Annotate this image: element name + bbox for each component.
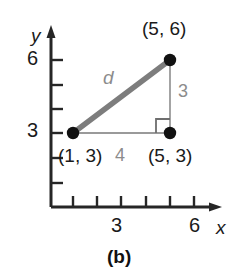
x-tick-label-6: 6 (189, 215, 200, 235)
x-axis-ticks (73, 196, 194, 207)
point-label-1-3: (1, 3) (58, 146, 102, 165)
vertical-leg-length-label: 3 (178, 82, 188, 100)
figure-caption: (b) (107, 247, 131, 266)
point-5-3-marker (164, 127, 176, 139)
y-tick-label-6: 6 (27, 48, 38, 68)
point-label-5-6: (5, 6) (142, 19, 186, 38)
y-tick-label-3: 3 (27, 120, 38, 140)
x-axis-arrowhead (209, 203, 222, 212)
x-axis-label: x (216, 218, 226, 237)
point-5-6-marker (164, 54, 176, 66)
hypotenuse-length-label: d (103, 68, 114, 87)
distance-formula-figure: y x 6 3 3 6 (5, 6) (1, 3) (5, 3) d 4 3 (… (0, 0, 236, 275)
y-axis-label: y (31, 26, 41, 45)
y-axis-arrowhead (47, 25, 56, 38)
x-tick-label-3: 3 (111, 215, 122, 235)
point-1-3-marker (67, 127, 79, 139)
point-label-5-3: (5, 3) (148, 146, 192, 165)
horizontal-leg-length-label: 4 (115, 146, 125, 164)
